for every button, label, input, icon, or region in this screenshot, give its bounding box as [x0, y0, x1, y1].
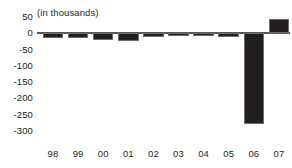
x-tick-label-05: 05 — [217, 148, 241, 159]
bar-06 — [244, 33, 265, 124]
x-tick-label-99: 99 — [66, 148, 90, 159]
x-tick-label-06: 06 — [242, 148, 266, 159]
x-tick-label-00: 00 — [91, 148, 115, 159]
y-tick-label: -100 — [14, 61, 33, 71]
x-tick-label-02: 02 — [141, 148, 165, 159]
bar-00 — [93, 33, 114, 40]
x-axis-tick-labels: 98990001020304050607 — [37, 141, 292, 168]
plot-area — [37, 0, 292, 140]
x-tick-label-98: 98 — [41, 148, 65, 159]
y-tick-label: -150 — [14, 77, 33, 87]
y-tick-label: -250 — [14, 110, 33, 120]
x-tick-label-04: 04 — [192, 148, 216, 159]
bar-01 — [118, 33, 139, 41]
bar-99 — [68, 33, 89, 38]
bar-03 — [168, 33, 189, 36]
bar-chart: (in thousands) 500-50-100-150-200-250-30… — [0, 0, 292, 168]
bar-07 — [269, 19, 290, 33]
y-tick-label: -200 — [14, 93, 33, 103]
bar-04 — [193, 33, 214, 36]
x-tick-label-07: 07 — [267, 148, 291, 159]
bar-02 — [143, 33, 164, 37]
y-axis-tick-labels: 500-50-100-150-200-250-300 — [0, 0, 36, 168]
bar-98 — [43, 33, 64, 38]
x-tick-label-01: 01 — [116, 148, 140, 159]
y-tick-label: 0 — [28, 28, 33, 38]
bar-05 — [218, 33, 239, 36]
y-tick-label: -50 — [19, 45, 33, 55]
y-tick-label: 50 — [22, 12, 33, 22]
x-tick-label-03: 03 — [167, 148, 191, 159]
y-tick-label: -300 — [14, 126, 33, 136]
